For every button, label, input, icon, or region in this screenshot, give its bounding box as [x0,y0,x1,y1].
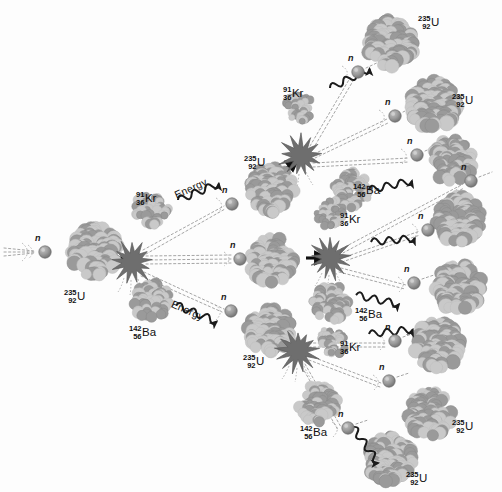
neutron-particle [226,198,238,210]
element-symbol: Kr [349,214,361,226]
nucleus [309,282,353,324]
neutron-label: n [230,241,236,250]
nucleon [81,269,91,279]
neutron-label: n [385,323,391,332]
neutron-particle [39,246,51,258]
neutron-label: n [35,234,41,243]
nucleus [408,317,466,374]
nucleon [267,207,279,219]
element-symbol: Ba [368,309,382,321]
nucleus [245,232,300,288]
nucleon [265,347,276,358]
nucleon [150,220,159,229]
element-symbol: U [77,291,85,303]
element-symbol: Ba [142,327,156,339]
isotope-label-barium: 14256Ba [355,300,382,322]
nucleon [330,316,339,325]
neutron-label: n [385,98,391,107]
nucleus [402,387,458,441]
nucleon [93,268,106,281]
neutron-particle [342,422,354,434]
atomic-number: 92 [456,101,464,109]
atomic-number: 36 [340,220,348,228]
neutron-label: n [418,212,424,221]
neutron-label: n [404,265,410,274]
isotope-label-uranium: 23592U [418,8,439,30]
element-symbol: U [431,17,439,29]
nucleon [328,349,335,356]
neutron-label: n [221,293,227,302]
energy-wave-arrow [328,66,371,92]
neutron-label: n [379,363,385,372]
nucleon [425,119,439,133]
nucleon [456,236,467,247]
atomic-number: 92 [248,163,256,171]
neutron-particle [234,253,246,265]
neutron-label: n [338,410,344,419]
isotope-label-uranium: 23592U [64,282,85,304]
isotope-label-krypton: 9136Kr [340,333,360,355]
isotope-label-uranium: 23592U [452,412,473,434]
nucleus [430,190,486,247]
nucleus [65,221,124,281]
isotope-label-uranium: 23592U [244,148,265,170]
atomic-number: 36 [283,94,291,102]
isotope-label-uranium: 23592U [243,347,264,369]
nucleon [458,301,471,314]
element-symbol: Kr [292,88,304,100]
fission-burst [311,237,351,280]
nucleon [385,59,399,73]
element-symbol: U [465,421,473,433]
neutron-particle [465,175,477,187]
element-symbol: U [465,95,473,107]
isotope-label-barium: 14256Ba [353,176,380,198]
neutron-label: n [461,163,467,172]
energy-wave-arrow [371,235,415,246]
nucleus [429,259,487,315]
isotope-label-uranium: 23592U [406,464,427,486]
neutron-particle [352,66,364,78]
atomic-number: 56 [304,433,312,441]
neutron-particle [408,277,420,289]
nucleon [379,474,392,487]
neutron-particle [389,110,401,122]
atomic-number: 92 [456,427,464,435]
nucleon [156,309,166,319]
isotope-label-krypton: 9136Kr [340,205,360,227]
atomic-number: 92 [68,297,76,305]
isotope-label-krypton: 9136Kr [283,79,303,101]
element-symbol: Kr [349,342,361,354]
nucleon [439,116,454,131]
nucleon [265,276,277,288]
nucleon [315,311,323,319]
element-symbol: Ba [366,185,380,197]
nucleon [289,114,295,120]
neutron-particle [389,335,401,347]
neutron-label: n [348,54,354,63]
neutron-particle [422,224,434,236]
fission-chain-reaction-figure: nnnnnnnnnnnnn23592U9136Kr14256Ba23592U23… [0,0,502,492]
isotope-label-barium: 14256Ba [129,318,156,340]
nucleon [427,430,438,441]
nucleus [129,278,174,323]
element-symbol: Kr [145,193,157,205]
atomic-number: 92 [247,362,255,370]
nucleon [444,175,456,187]
isotope-label-krypton: 9136Kr [136,184,156,206]
nucleon [285,102,292,109]
nucleon [430,361,442,373]
atomic-number: 56 [359,315,367,323]
nucleus [362,13,420,73]
atomic-number: 56 [133,333,141,341]
nucleon [299,118,305,124]
neutron-label: n [407,137,413,146]
atomic-number: 92 [422,23,430,31]
atomic-number: 36 [340,348,348,356]
neutron-particle [383,375,395,387]
neutron-label: n [222,186,228,195]
particle-layer [0,0,502,492]
atomic-number: 92 [410,479,418,487]
atomic-number: 36 [136,199,144,207]
neutron-particle [411,149,423,161]
nucleon [327,222,333,228]
